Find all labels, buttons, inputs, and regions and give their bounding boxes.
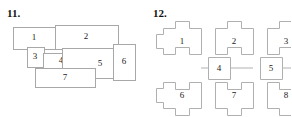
jigsaw-label-4: 4 [217, 63, 222, 73]
jigsaw-label-6: 6 [180, 90, 185, 100]
rect-cell-7: 7 [36, 69, 96, 88]
jigsaw-label-1: 1 [180, 36, 185, 46]
figure-12-container: 12. 12345678 [145, 0, 291, 117]
figure-12-diagram: 12345678 [145, 0, 291, 117]
jigsaw-label-8: 8 [284, 90, 289, 100]
jigsaw-cell-8: 8 [268, 83, 292, 116]
rect-label-5: 5 [98, 58, 103, 68]
rect-cell-3: 3 [28, 48, 45, 68]
rect-cell-1: 1 [14, 28, 57, 50]
jigsaw-cell-2: 2 [216, 22, 254, 55]
jigsaw-cell-3: 3 [268, 22, 292, 55]
figure-11-container: 11. 1234567 [0, 0, 146, 117]
jigsaw-cell-6: 6 [157, 83, 202, 116]
rect-cell-2: 2 [56, 26, 119, 50]
figure-11-diagram: 1234567 [0, 0, 146, 117]
jigsaw-label-3: 3 [284, 36, 289, 46]
jigsaw-label-2: 2 [232, 36, 237, 46]
rect-label-3: 3 [33, 51, 38, 61]
rect-label-1: 1 [32, 32, 37, 42]
rect-label-2: 2 [84, 31, 89, 41]
diagram-page: 11. 1234567 12. 12345678 [0, 0, 291, 117]
jigsaw-cell-4: 4 [209, 58, 231, 80]
rect-label-7: 7 [63, 72, 68, 82]
jigsaw-label-5: 5 [269, 63, 274, 73]
jigsaw-cell-7: 7 [216, 83, 254, 116]
jigsaw-label-7: 7 [232, 90, 237, 100]
rect-label-6: 6 [122, 56, 127, 66]
rect-cell-6: 6 [114, 45, 136, 81]
jigsaw-cell-5: 5 [261, 58, 283, 80]
jigsaw-cell-1: 1 [157, 22, 202, 55]
